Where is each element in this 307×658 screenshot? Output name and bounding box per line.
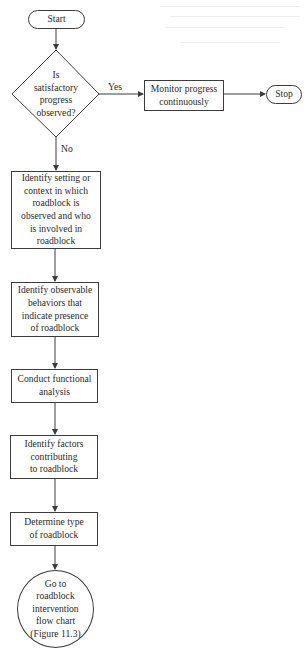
decision-label: Is satisfactory progress observed?: [14, 69, 98, 119]
determine-type-label: Determine type of roadblock: [24, 516, 83, 541]
start-label: Start: [47, 13, 65, 26]
identify-behaviors-box: Identify observable behaviors that indic…: [11, 282, 99, 337]
monitor-progress-label: Monitor progress continuously: [151, 83, 217, 108]
yes-label: Yes: [108, 81, 122, 92]
identify-factors-label: Identify factors contributing to roadblo…: [25, 438, 84, 476]
identify-setting-label: Identify setting or context in which roa…: [21, 172, 91, 248]
edge-label-yes: Yes: [108, 81, 122, 92]
stop-label: Stop: [275, 88, 293, 101]
identify-behaviors-label: Identify observable behaviors that indic…: [18, 284, 92, 334]
start-terminator: Start: [28, 10, 85, 29]
edge-label-no: No: [61, 143, 73, 154]
flowchart-canvas: Start Is satisfactory progress observed?…: [0, 0, 307, 658]
identify-setting-box: Identify setting or context in which roa…: [11, 171, 101, 249]
functional-analysis-box: Conduct functional analysis: [11, 369, 98, 403]
stop-terminator: Stop: [266, 85, 302, 104]
go-to-chart-connector: Go to roadblock intervention flow chart …: [17, 570, 94, 648]
no-label: No: [61, 143, 73, 154]
go-to-chart-label: Go to roadblock intervention flow chart …: [30, 578, 80, 641]
determine-type-box: Determine type of roadblock: [10, 512, 98, 546]
functional-analysis-label: Conduct functional analysis: [18, 373, 92, 398]
identify-factors-box: Identify factors contributing to roadblo…: [10, 435, 98, 479]
decision-label-container: Is satisfactory progress observed?: [14, 69, 98, 119]
monitor-progress-box: Monitor progress continuously: [144, 80, 224, 111]
